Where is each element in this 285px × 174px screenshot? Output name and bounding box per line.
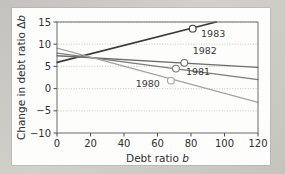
series-label-1981: 1981 (186, 66, 210, 77)
x-axis-title: Debt ratio b (126, 152, 189, 164)
series-label-1980: 1980 (136, 78, 160, 89)
x-tick-label: 0 (54, 138, 60, 149)
figure-card: 1983198219811980020406080100120Debt rati… (12, 8, 270, 165)
x-tick-label: 80 (185, 138, 198, 149)
x-tick-label: 100 (215, 138, 234, 149)
x-tick-label: 20 (84, 138, 97, 149)
series-label-1982: 1982 (193, 45, 217, 56)
figure-background: 1983198219811980020406080100120Debt rati… (0, 0, 285, 174)
chart-canvas: 1983198219811980020406080100120Debt rati… (12, 8, 270, 165)
data-point-1980 (168, 77, 175, 84)
y-tick-label: 5 (45, 61, 51, 72)
y-axis-title: Change in debt ratio Δb (15, 15, 27, 140)
y-tick-label: 15 (38, 17, 51, 28)
series-group: 1983198219811980 (57, 22, 258, 102)
x-axis: 020406080100120Debt ratio b (54, 133, 268, 164)
y-tick-label: 10 (38, 39, 51, 50)
x-tick-label: 60 (151, 138, 164, 149)
series-label-1983: 1983 (201, 28, 225, 39)
y-axis: −10−5051015Change in debt ratio Δb (15, 15, 57, 140)
y-tick-label: −5 (36, 105, 51, 116)
x-tick-label: 40 (118, 138, 131, 149)
y-tick-label: −10 (30, 128, 51, 139)
y-tick-label: 0 (45, 83, 51, 94)
data-point-1981 (173, 65, 180, 72)
data-point-1983 (189, 25, 196, 32)
x-tick-label: 120 (248, 138, 267, 149)
